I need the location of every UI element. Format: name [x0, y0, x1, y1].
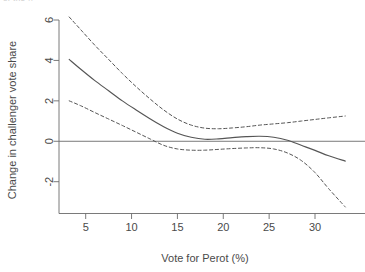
tick-labels-group: 51015202530-20246 [43, 17, 321, 233]
x-tick-label: 5 [83, 221, 89, 233]
chart-figure: of the .. 51015202530-20246 Vote for Per… [0, 0, 365, 272]
data-series-group [69, 17, 345, 207]
clipped-header-text: of the .. [3, 0, 33, 1]
y-axis-title: Change in challenger vote share [6, 41, 18, 199]
confidence-band-curve [69, 17, 345, 129]
x-tick-label: 10 [125, 221, 137, 233]
axes-group [59, 20, 365, 214]
y-tick-label: 6 [43, 17, 55, 23]
x-tick-label: 25 [263, 221, 275, 233]
ticks-group [54, 20, 316, 219]
x-tick-label: 30 [309, 221, 321, 233]
x-tick-label: 15 [171, 221, 183, 233]
confidence-band-curve [69, 101, 345, 207]
y-tick-label: 2 [43, 98, 55, 104]
y-tick-label: 4 [43, 57, 55, 63]
chart-canvas: 51015202530-20246 Vote for Perot (%) Cha… [0, 0, 365, 272]
y-tick-label: -2 [43, 177, 55, 187]
x-tick-label: 20 [217, 221, 229, 233]
x-axis-title: Vote for Perot (%) [161, 252, 248, 264]
fitted-curve [69, 59, 345, 161]
y-tick-label: 0 [43, 138, 55, 144]
